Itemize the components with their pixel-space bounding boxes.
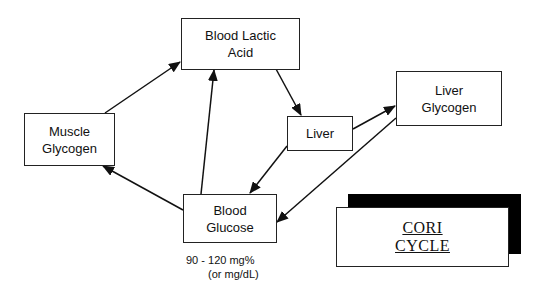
title-line: CYCLE (395, 237, 450, 255)
node-label-line: Muscle (49, 123, 90, 140)
node-label-line: Glycogen (422, 99, 477, 116)
node-blood-lactic-acid: Blood Lactic Acid (181, 18, 300, 70)
title-card: CORI CYCLE (336, 207, 509, 267)
node-label-line: Acid (228, 44, 253, 61)
arrow-liver-to-liverglycogen (353, 106, 395, 129)
node-label-line: Blood (213, 202, 246, 219)
arrow-lactic-to-liver (276, 69, 301, 115)
node-label-line: Liver (435, 82, 463, 99)
arrow-glucose-to-muscle (103, 166, 183, 210)
node-label-line: Blood Lactic (205, 27, 276, 44)
arrow-muscle-to-lactic (105, 62, 180, 113)
node-liver: Liver (287, 116, 353, 151)
node-blood-glucose: Blood Glucose (183, 194, 277, 243)
node-liver-glycogen: Liver Glycogen (396, 71, 502, 126)
arrow-glucose-to-lactic (201, 70, 214, 194)
title-line: CORI (402, 219, 442, 237)
node-muscle-glycogen: Muscle Glycogen (24, 113, 115, 166)
node-label-line: Glucose (206, 219, 254, 236)
arrow-liver-to-glucose (250, 146, 287, 193)
node-label-line: Glycogen (42, 140, 97, 157)
node-label-line: Liver (306, 125, 334, 142)
